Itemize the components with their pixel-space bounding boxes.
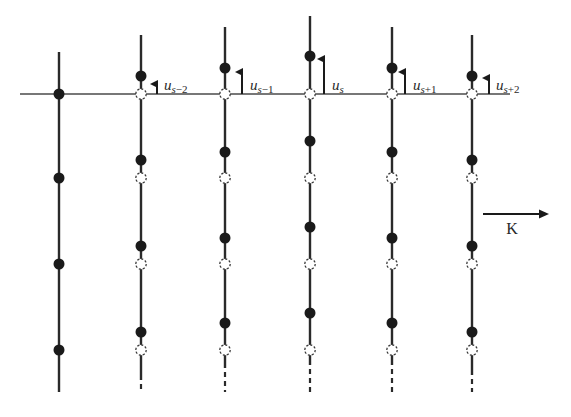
- equilibrium-position: [305, 173, 315, 183]
- equilibrium-position: [305, 345, 315, 355]
- displacement-label-s: us: [332, 77, 344, 95]
- equilibrium-position: [467, 259, 477, 269]
- equilibrium-position: [305, 259, 315, 269]
- displaced-atom: [467, 155, 478, 166]
- displaced-atom: [136, 241, 147, 252]
- equilibrium-position: [220, 345, 230, 355]
- equilibrium-position: [305, 89, 315, 99]
- equilibrium-position: [136, 345, 146, 355]
- displaced-atom: [220, 233, 231, 244]
- displaced-atoms-layer: [54, 51, 478, 356]
- displaced-atom: [136, 71, 147, 82]
- displaced-atom: [136, 155, 147, 166]
- displacement-label-s+1: us+1: [413, 77, 437, 95]
- displacement-label-s-1: us−1: [250, 77, 274, 95]
- displaced-atom: [220, 318, 231, 329]
- labels-layer: us−2us−1usus+1us+2: [164, 77, 520, 95]
- displaced-atom: [305, 136, 316, 147]
- displaced-atom: [136, 327, 147, 338]
- reference-atom: [54, 173, 65, 184]
- lattice-wave-diagram: us−2us−1usus+1us+2 K: [0, 0, 571, 417]
- displacement-label-s+2: us+2: [496, 77, 520, 95]
- displaced-atom: [467, 327, 478, 338]
- displaced-atom: [467, 241, 478, 252]
- equilibrium-position: [220, 89, 230, 99]
- equilibrium-position: [136, 259, 146, 269]
- equilibrium-position: [387, 173, 397, 183]
- wavevector-arrowhead-icon: [539, 210, 549, 219]
- wavevector-layer: K: [483, 210, 549, 238]
- displaced-atom: [387, 63, 398, 74]
- equilibrium-position: [136, 89, 146, 99]
- displaced-atom: [387, 318, 398, 329]
- displaced-atom: [387, 147, 398, 158]
- displaced-atom: [305, 308, 316, 319]
- displaced-atom: [305, 222, 316, 233]
- reference-atom: [54, 345, 65, 356]
- lines-layer: [20, 16, 510, 392]
- equilibrium-position: [387, 345, 397, 355]
- displaced-atom: [387, 233, 398, 244]
- equilibrium-position: [387, 89, 397, 99]
- equilibrium-position: [387, 259, 397, 269]
- equilibrium-position: [136, 173, 146, 183]
- equilibrium-position: [220, 173, 230, 183]
- reference-atom: [54, 89, 65, 100]
- displacement-label-s-2: us−2: [164, 77, 188, 95]
- equilibrium-position: [467, 173, 477, 183]
- displaced-atom: [220, 63, 231, 74]
- equilibrium-position: [220, 259, 230, 269]
- wavevector-label: K: [506, 220, 518, 237]
- displaced-atom: [305, 51, 316, 62]
- equilibrium-position: [467, 345, 477, 355]
- displaced-atom: [220, 147, 231, 158]
- equilibrium-position: [467, 89, 477, 99]
- displaced-atom: [467, 71, 478, 82]
- reference-atom: [54, 259, 65, 270]
- displacement-arrows-layer: [157, 59, 489, 94]
